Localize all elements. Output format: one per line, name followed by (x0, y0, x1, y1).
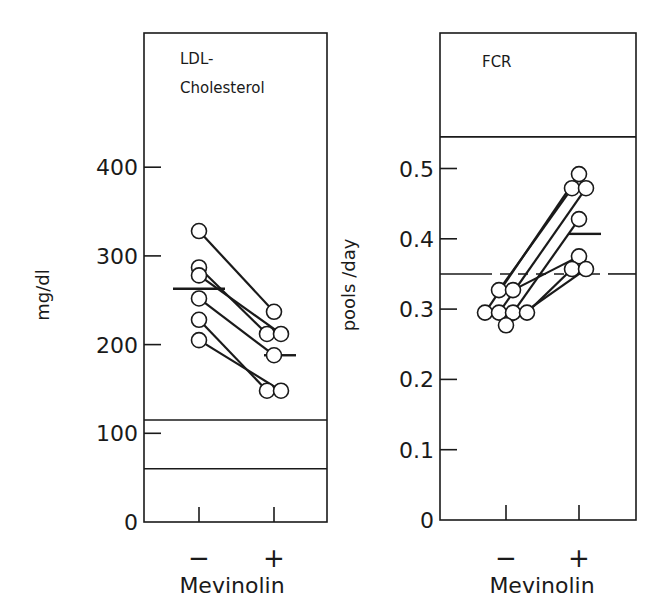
ldl-plot-frame (144, 33, 327, 522)
ldl-y-tick-label: 300 (96, 244, 138, 269)
ldl-category-minus: − (188, 543, 210, 573)
fcr-point-before (492, 283, 507, 298)
fcr-point-before (520, 305, 535, 320)
fcr-category-plus: + (568, 543, 590, 573)
ldl-point-before (192, 224, 207, 239)
ldl-point-after (274, 383, 289, 398)
ldl-y-tick-label: 400 (96, 155, 138, 180)
ldl-point-before (192, 268, 207, 283)
fcr-x-axis-label: Mevinolin (489, 573, 594, 598)
fcr-y-tick-label: 0.3 (399, 297, 434, 322)
ldl-y-axis-label: mg/dl (32, 269, 53, 320)
fcr-y-axis-label: pools /day (338, 238, 359, 331)
fcr-y-tick-label: 0.2 (399, 367, 434, 392)
ldl-subject-line (199, 320, 267, 391)
ldl-point-after (267, 304, 282, 319)
fcr-point-after (565, 181, 580, 196)
ldl-x-axis-label: Mevinolin (179, 573, 284, 598)
fcr-point-before (478, 305, 493, 320)
fcr-point-after (579, 181, 594, 196)
fcr-y-tick-label: 0.4 (399, 227, 434, 252)
fcr-point-after (579, 262, 594, 277)
ldl-subject-line (199, 231, 274, 312)
fcr-y-tick-label: 0 (420, 508, 434, 533)
fcr-y-tick-label: 0.1 (399, 438, 434, 463)
ldl-title-line-2: Cholesterol (180, 79, 265, 97)
fcr-point-before (499, 318, 514, 333)
ldl-y-tick-label: 0 (124, 510, 138, 535)
ldl-point-after (274, 326, 289, 341)
ldl-point-after (260, 326, 275, 341)
fcr-point-after (572, 212, 587, 227)
ldl-point-before (192, 333, 207, 348)
fcr-category-minus: − (495, 543, 517, 573)
ldl-point-before (192, 291, 207, 306)
fcr-point-after (572, 167, 587, 182)
ldl-y-tick-label: 200 (96, 333, 138, 358)
fcr-title: FCR (482, 53, 512, 71)
ldl-title-line-1: LDL- (180, 50, 213, 68)
fcr-panel: FCR 00.10.20.30.40.5 − + Mevinolin pools… (338, 33, 636, 598)
ldl-point-before (192, 312, 207, 327)
ldl-cholesterol-panel: LDL- Cholesterol 0100200300400 − + Mevin… (32, 33, 327, 598)
fcr-point-before (506, 283, 521, 298)
fcr-point-after (565, 262, 580, 277)
ldl-category-plus: + (263, 543, 285, 573)
ldl-point-after (260, 383, 275, 398)
ldl-point-after (267, 348, 282, 363)
fcr-y-tick-label: 0.5 (399, 157, 434, 182)
figure: LDL- Cholesterol 0100200300400 − + Mevin… (0, 0, 663, 615)
ldl-y-tick-label: 100 (96, 421, 138, 446)
